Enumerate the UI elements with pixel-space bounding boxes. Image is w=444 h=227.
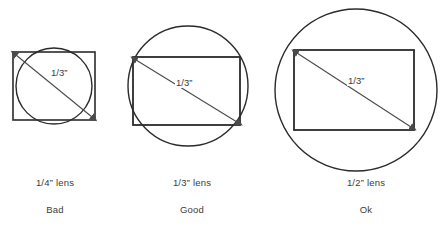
lens-label-half-inch: 1/2” lens [296,178,436,188]
lens-sensor-diagram: 1/3” 1/3” 1/3” 1/4” lens Bad 1/3” lens G… [0,0,444,227]
verdict-label-third-inch: Good [122,205,262,215]
verdict-label-quarter-inch: Bad [0,205,125,215]
verdict-label-half-inch: Ok [296,205,436,215]
sensor-diagonal-arrow [297,53,411,127]
panel-quarter-inch-shapes [13,48,95,124]
diagonal-label-third-inch: 1/3” [175,78,193,88]
diagonal-label-half-inch: 1/3” [347,76,365,86]
caption-third-inch: 1/3” lens Good [122,178,262,214]
sensor-diagonal-arrow [16,55,92,117]
sensor-diagonal-arrow [136,60,237,122]
diagonal-label-quarter-inch: 1/3” [50,68,68,78]
caption-quarter-inch: 1/4” lens Bad [0,178,125,214]
lens-label-third-inch: 1/3” lens [122,178,262,188]
lens-image-circle [275,9,437,171]
caption-half-inch: 1/2” lens Ok [296,178,436,214]
lens-label-quarter-inch: 1/4” lens [0,178,125,188]
panel-half-inch-shapes [275,9,437,171]
